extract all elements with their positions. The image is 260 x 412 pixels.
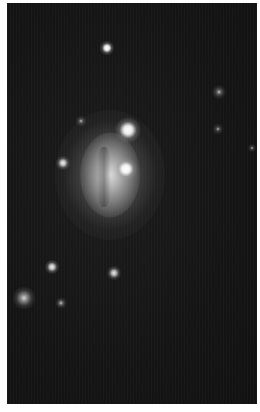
star-lower-mid (107, 266, 122, 281)
star-top (100, 41, 115, 56)
star-upper-bright (115, 117, 142, 144)
star-left-mid (56, 156, 71, 171)
sky-image (7, 3, 257, 404)
star-faint-upper (75, 115, 87, 127)
star-right-faint-1 (212, 85, 227, 100)
star-bottom-left-big (12, 286, 36, 310)
star-galaxy-overlap (114, 157, 138, 181)
star-bottom-faint (55, 297, 67, 309)
star-right-edge (248, 144, 257, 153)
star-lower-left (45, 260, 60, 275)
star-right-faint-2 (212, 123, 224, 135)
galaxy-dust-lane (97, 147, 111, 207)
